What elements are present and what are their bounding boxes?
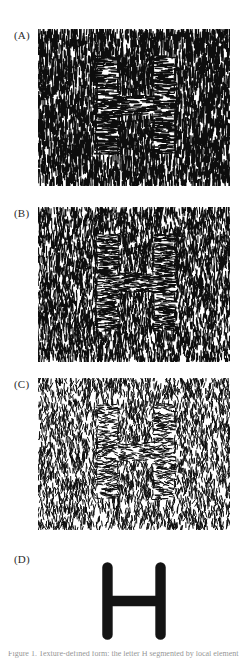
panel-label-d: (D) (14, 553, 30, 565)
texture-canvas-b (38, 207, 230, 362)
panel-label-b: (B) (14, 207, 29, 219)
shape-panel-d (86, 556, 182, 646)
texture-canvas-c (38, 378, 230, 530)
texture-panel-b (38, 207, 230, 362)
texture-panel-a (38, 29, 230, 186)
texture-panel-c (38, 378, 230, 530)
caption-strip: Figure 1. Texture-defined form: the lett… (0, 651, 240, 660)
caption-text: Figure 1. Texture-defined form: the lett… (8, 651, 240, 658)
panel-label-a: (A) (14, 29, 30, 41)
texture-canvas-a (38, 29, 230, 186)
panel-label-c: (C) (14, 378, 29, 390)
h-outline-shape (86, 556, 182, 646)
figure-root: (A) (B) (C) (D) Figure 1. Texture-define… (0, 0, 240, 660)
